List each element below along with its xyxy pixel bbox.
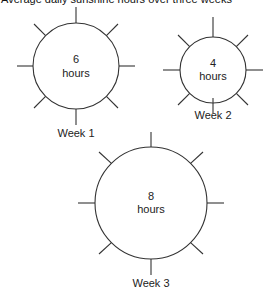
sun-unit: hours bbox=[62, 67, 90, 79]
sun-week-2: 4 hours Week 2 bbox=[163, 17, 263, 121]
sun-unit: hours bbox=[199, 70, 227, 82]
week-label: Week 3 bbox=[132, 277, 169, 289]
week-label: Week 2 bbox=[194, 109, 231, 121]
sun-circle bbox=[33, 23, 119, 109]
sun-value: 6 bbox=[73, 53, 79, 65]
sun-value: 8 bbox=[148, 190, 154, 202]
week-label: Week 1 bbox=[57, 127, 94, 139]
sun-week-1: 6 hours Week 1 bbox=[17, 7, 135, 139]
sun-week-3: 8 hours Week 3 bbox=[78, 132, 224, 289]
sun-unit: hours bbox=[137, 203, 165, 215]
sun-diagram: 6 hours Week 1 4 hours Week 2 bbox=[0, 0, 274, 297]
sun-value: 4 bbox=[210, 57, 216, 69]
